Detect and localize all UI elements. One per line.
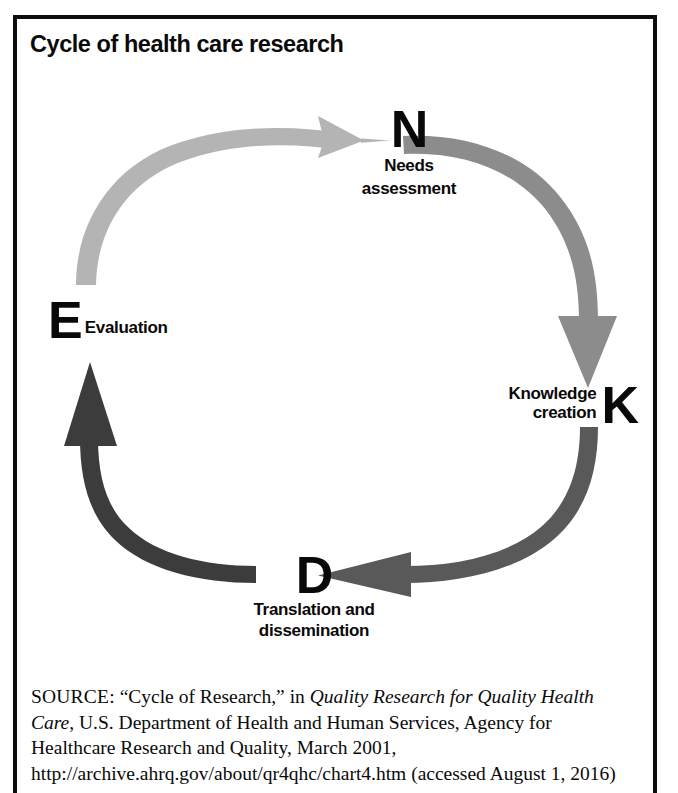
- cycle-node-needs-assessment: N Needs assessment: [324, 106, 494, 198]
- cycle-node-translation-dissemination: D Translation and dissemination: [229, 552, 399, 640]
- source-label: SOURCE:: [31, 686, 115, 707]
- figure-root: Cycle of health care research: [0, 0, 678, 793]
- source-text-before: “Cycle of Research,” in: [115, 686, 310, 707]
- node-caption-needs-assessment-line1: Needs: [324, 156, 494, 175]
- cycle-node-knowledge-creation: Knowledge creation K: [413, 383, 638, 427]
- page-title: Cycle of health care research: [30, 31, 590, 58]
- arrow-d-to-e: [64, 362, 256, 583]
- node-letter-k: K: [601, 383, 638, 427]
- node-caption-needs-assessment-line2: assessment: [324, 179, 494, 198]
- node-caption-translation-line1: Translation and: [229, 600, 399, 619]
- node-caption-translation-line2: dissemination: [229, 621, 399, 640]
- node-caption-knowledge-creation-line2: creation: [533, 403, 597, 422]
- source-note: SOURCE: “Cycle of Research,” in Quality …: [31, 684, 631, 786]
- node-letter-n: N: [324, 106, 494, 152]
- node-letter-d: D: [229, 552, 399, 598]
- node-caption-knowledge-creation-line1: Knowledge: [508, 384, 596, 403]
- node-letter-e: E: [48, 298, 82, 342]
- node-caption-knowledge-creation: Knowledge creation: [508, 384, 601, 427]
- source-text-after: , U.S. Department of Health and Human Se…: [31, 712, 616, 784]
- cycle-diagram: N Needs assessment Knowledge creation K …: [13, 70, 657, 670]
- node-caption-evaluation: Evaluation: [82, 318, 168, 342]
- cycle-node-evaluation: E Evaluation: [48, 298, 278, 342]
